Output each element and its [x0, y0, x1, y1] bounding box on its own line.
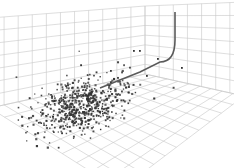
plot-layer [0, 0, 234, 168]
3d-scatter-scene [0, 0, 234, 168]
trajectory-line [100, 12, 175, 88]
